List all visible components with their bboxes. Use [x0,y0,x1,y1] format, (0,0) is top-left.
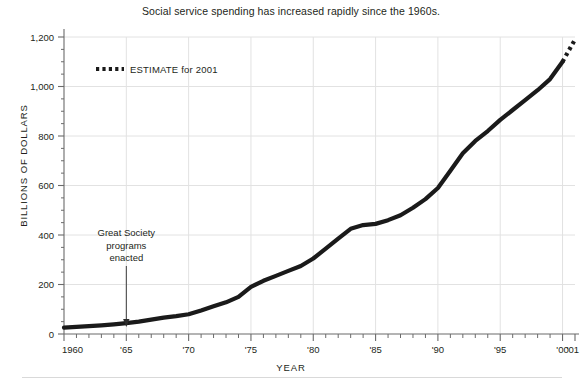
x-tick-label: '90 [432,344,444,355]
legend-estimate-label: ESTIMATE for 2001 [130,64,218,75]
y-tick-label: 200 [38,279,54,290]
x-tick-label: '85 [369,344,381,355]
x-tick-label: 1960 [62,344,83,355]
annotation-line: enacted [109,252,143,263]
y-tick-label: 800 [38,131,54,142]
plot-area: 02004006008001,0001,2001960'65'70'75'80'… [0,0,582,390]
estimate-line [563,39,575,61]
y-tick-label: 1,200 [30,32,54,43]
x-tick-label: '70 [182,344,194,355]
x-tick-label: '95 [494,344,506,355]
y-tick-label: 0 [49,329,54,340]
y-tick-label: 600 [38,180,54,191]
x-tick-label: '75 [245,344,257,355]
x-tick-label: '01 [567,344,579,355]
bottom-divider [22,377,562,378]
y-tick-label: 1,000 [30,81,54,92]
annotation-line: Great Society [98,227,156,238]
social-service-spending-chart: Social service spending has increased ra… [0,0,582,390]
y-tick-label: 400 [38,230,54,241]
x-tick-label: '80 [307,344,319,355]
x-tick-label: '65 [120,344,132,355]
annotation-line: programs [106,240,146,251]
